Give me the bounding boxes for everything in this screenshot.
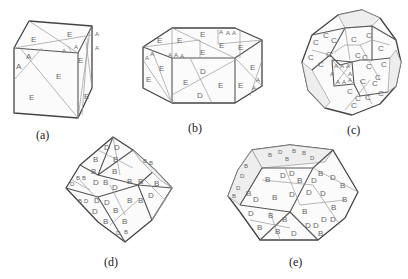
face-label: B — [318, 169, 323, 178]
face-label: D — [200, 67, 206, 76]
face-label: E — [183, 78, 188, 87]
face-label: B — [275, 227, 280, 236]
face-label: A — [334, 63, 338, 69]
caption-b: (b) — [188, 121, 202, 135]
face-label: B — [244, 163, 248, 169]
face-label: D — [280, 171, 286, 180]
face-label: E — [29, 93, 34, 102]
polyhedron-c: C C C C C C C C C C C C C C A A A A A A … — [302, 10, 401, 115]
face-label: B — [138, 177, 143, 186]
face-label: A — [252, 85, 256, 91]
face-label: B — [82, 175, 86, 181]
face-label: C — [381, 60, 387, 69]
face-label: C — [323, 31, 329, 40]
face-label: A — [168, 52, 172, 58]
face-label: A — [340, 63, 344, 69]
face-label: B — [292, 148, 296, 154]
face-label: B — [143, 158, 147, 164]
face-label: E — [200, 48, 205, 57]
face-label: E — [177, 36, 182, 45]
face-label: B — [113, 155, 118, 164]
face-label: A — [346, 63, 350, 69]
face-label: C — [351, 101, 357, 110]
face-label: B — [246, 189, 251, 198]
face-label: B — [78, 198, 82, 204]
face-label: D — [278, 149, 283, 155]
face-label: D — [116, 230, 121, 236]
face-label: E — [200, 30, 205, 39]
face-label: E — [219, 41, 224, 50]
face-label: A — [95, 45, 99, 51]
face-label: E — [67, 30, 72, 39]
face-label: E — [159, 64, 164, 73]
face-label: C — [366, 62, 372, 71]
face-label: D — [148, 191, 154, 200]
face-label: E — [238, 81, 243, 90]
face-label: A — [219, 29, 223, 35]
face-label: E — [78, 56, 83, 65]
face-label: D — [84, 198, 89, 204]
face-label: B — [76, 175, 80, 181]
face-label: C — [331, 36, 337, 45]
face-label: B — [103, 178, 108, 187]
face-label: D — [253, 195, 259, 204]
face-label: C — [378, 44, 384, 53]
face-label: A — [150, 51, 154, 57]
face-label: E — [157, 36, 162, 45]
figure-canvas: E E A A A A E E A A E E (a) E E E A A — [0, 0, 408, 279]
face-label: A — [232, 30, 236, 36]
face-label: E — [218, 81, 223, 90]
face-label: A — [16, 62, 22, 71]
face-label: C — [351, 35, 357, 44]
caption-d: (d) — [104, 255, 118, 269]
face-label: A — [330, 71, 334, 77]
face-label: D — [240, 173, 245, 179]
face-label: B — [318, 229, 323, 238]
face-label: B — [265, 175, 270, 184]
face-label: D — [321, 215, 327, 224]
face-label: C — [378, 89, 384, 98]
face-label: D — [305, 221, 311, 230]
face-label: D — [311, 176, 317, 185]
face-label: C — [308, 53, 314, 62]
face-label: A — [26, 52, 32, 61]
face-label: C — [365, 93, 371, 102]
face-label: C — [372, 79, 378, 88]
face-label: C — [313, 38, 319, 47]
face-label: D — [291, 229, 297, 238]
face-label: D — [114, 143, 120, 152]
face-label: E — [31, 35, 36, 44]
face-label: B — [342, 195, 347, 204]
face-label: D — [289, 190, 295, 199]
polyhedron-d: D D B B B B B B B B D D B B D D B B B D … — [66, 137, 172, 242]
face-label: C — [366, 31, 372, 40]
face-label: D — [197, 91, 203, 100]
face-label: D — [320, 189, 326, 198]
face-label: A — [226, 30, 230, 36]
face-label: D — [94, 196, 100, 205]
face-label: D — [330, 215, 336, 224]
caption-c: (c) — [347, 123, 360, 137]
polyhedron-b-hexagonal-prism: E E E A A A A A A A A E E E E E E D E D … — [143, 28, 262, 103]
face-label: C — [362, 53, 368, 62]
face-label: A — [174, 52, 178, 58]
face-label: A — [62, 48, 66, 54]
face-label: A — [74, 44, 78, 50]
face-label: A — [348, 77, 352, 83]
face-label: B — [122, 217, 127, 226]
face-label: C — [355, 51, 361, 60]
face-label: D — [289, 169, 295, 178]
face-label: A — [95, 31, 99, 37]
face-label: A — [145, 55, 149, 61]
face-label: B — [149, 160, 153, 166]
face-label: E — [84, 92, 89, 101]
caption-a: (a) — [36, 128, 49, 142]
face-label: A — [336, 79, 340, 85]
face-label: B — [127, 196, 132, 205]
face-label: D — [93, 178, 99, 187]
face-label: A — [256, 77, 260, 83]
face-label: C — [347, 87, 353, 96]
face-label: A — [342, 79, 346, 85]
caption-e: (e) — [289, 255, 302, 269]
face-label: B — [138, 196, 143, 205]
